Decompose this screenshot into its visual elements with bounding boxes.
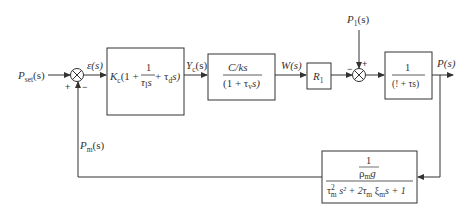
block-diagram: Pset(s) + − ε(s) Kc(1 + 1 τIs + τds) Yc(… (0, 0, 468, 208)
sum2-plus-sign: + (362, 59, 367, 69)
setpoint-label: Pset(s) (17, 69, 45, 84)
output-label: P(s) (436, 57, 456, 70)
error-label: ε(s) (87, 59, 103, 72)
sum2-minus-sign: − (347, 64, 352, 74)
sum1-minus-sign: − (82, 82, 87, 92)
process-block (385, 52, 432, 99)
svg-text:(! + τs): (! + τs) (392, 79, 419, 90)
svg-text:1: 1 (366, 155, 371, 166)
controller-output-label: Yc(s) (186, 59, 207, 74)
flow-label: W(s) (281, 59, 302, 72)
svg-text:1: 1 (146, 62, 151, 73)
summing-junction-2 (353, 69, 366, 82)
sum1-plus-sign: + (65, 82, 70, 92)
svg-text:(1 + τvs): (1 + τvs) (223, 77, 260, 91)
summing-junction-1 (71, 69, 84, 82)
svg-text:C/ks: C/ks (228, 61, 248, 73)
measured-label: Pm(s) (79, 139, 105, 154)
disturbance-label: P1(s) (346, 13, 369, 28)
svg-text:1: 1 (405, 62, 410, 73)
